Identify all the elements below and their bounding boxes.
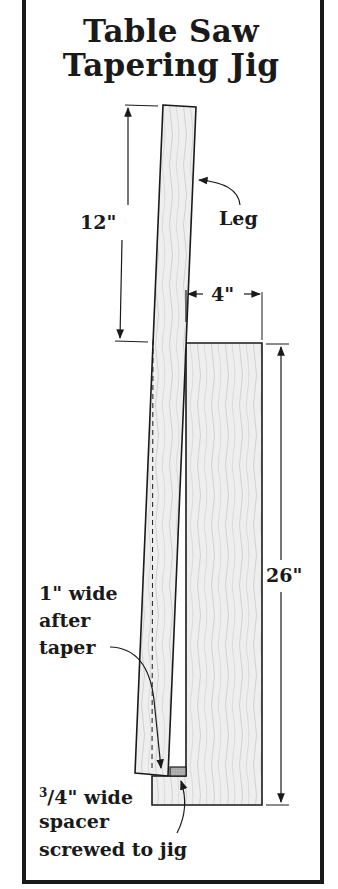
leg-label: Leg [219, 207, 258, 230]
taper-label-line-2: after [39, 609, 90, 632]
spacer-block [170, 767, 186, 776]
dimension-4-label: 4" [211, 283, 234, 306]
dimension-26-label: 26" [266, 564, 302, 587]
spacer-label-line-1: 3/4" wide [39, 782, 133, 809]
spacer-label-line-2: spacer [39, 810, 109, 833]
dimension-12-label: 12" [80, 211, 116, 234]
leg-leader-arrow [199, 180, 240, 205]
taper-label-line-1: 1" wide [39, 582, 118, 605]
dimension-12in [115, 105, 158, 342]
jig-drawing [0, 0, 338, 889]
spacer-label-line-3: screwed to jig [39, 838, 187, 861]
taper-label-line-3: taper [39, 636, 95, 659]
spacer-fraction-rest: /4" wide [47, 786, 133, 808]
